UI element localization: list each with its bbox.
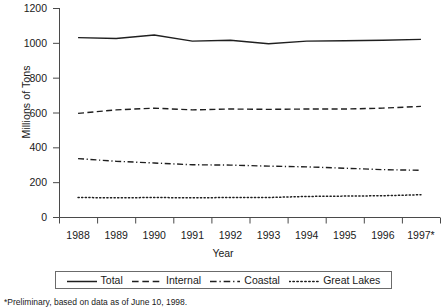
series-line-coastal (78, 159, 421, 171)
chart-footnote: *Preliminary, based on data as of June 1… (4, 297, 187, 307)
series-line-internal (78, 106, 421, 113)
legend-item-great-lakes: Great Lakes (289, 274, 380, 286)
legend-swatch-dashdot (210, 276, 240, 285)
legend-label: Coastal (244, 274, 280, 286)
series-line-great-lakes (78, 195, 421, 198)
chart-container: Millions of Tons 020040060080010001200 1… (0, 0, 446, 308)
plot-area (0, 0, 446, 308)
legend-swatch-solid (67, 276, 97, 285)
axis-spine (60, 8, 441, 218)
x-axis-title: Year (0, 247, 446, 259)
legend-label: Internal (166, 274, 201, 286)
chart-legend: TotalInternalCoastalGreat Lakes (55, 271, 392, 289)
legend-label: Great Lakes (323, 274, 380, 286)
legend-swatch-dotted (289, 276, 319, 285)
series-line-total (78, 35, 421, 44)
legend-swatch-dashed (132, 276, 162, 285)
legend-item-internal: Internal (132, 274, 201, 286)
legend-item-total: Total (67, 274, 123, 286)
legend-item-coastal: Coastal (210, 274, 280, 286)
legend-label: Total (101, 274, 123, 286)
